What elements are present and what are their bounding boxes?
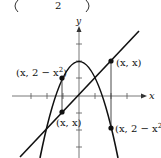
header-formula-fragment: 2 [15,0,89,12]
y-axis-arrow-icon [77,26,82,32]
x-axis-arrow-icon [141,94,147,99]
right-line-point-label: (x, x) [116,57,142,68]
left-paren [15,0,18,12]
y-axis-label: y [75,16,82,26]
right-parabola-point-marker [108,125,113,130]
x-axis-label: x [149,90,155,101]
fraction-denominator: 2 [55,0,61,11]
right-parabola-point-label: (x, 2 − x2) [115,122,161,134]
left-parabola-point-label: (x, 2 − x2) [16,66,67,78]
left-line-point-marker [59,109,64,114]
left-line-point-label: (x, x) [56,117,82,128]
right-line-point-marker [108,58,113,63]
line-y-equals-x [20,31,139,157]
diagram-canvas: 2 x y [0,0,161,158]
right-paren [86,0,89,12]
